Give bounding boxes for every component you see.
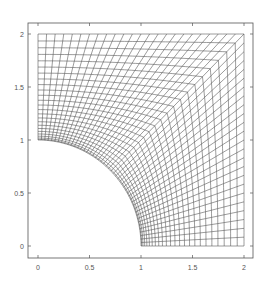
radial-mesh-line	[141, 237, 244, 242]
radial-mesh-line	[51, 34, 72, 141]
radial-mesh-line	[90, 34, 176, 154]
y-tick-label: 1	[20, 137, 24, 144]
radial-mesh-line	[74, 34, 132, 147]
x-tick-label: 0.5	[85, 264, 95, 271]
radial-mesh-line	[130, 122, 244, 199]
radial-mesh-line	[141, 220, 245, 236]
y-tick-label: 2	[20, 31, 24, 38]
x-tick-label: 2	[242, 264, 246, 271]
x-tick-label: 1.5	[188, 264, 198, 271]
mesh-lines	[38, 34, 244, 246]
y-tick-label: 0	[20, 243, 24, 250]
x-tick-label: 1	[139, 264, 143, 271]
mesh-plot: 00.511.52 00.511.52	[0, 0, 272, 291]
x-tick-label: 0	[36, 264, 40, 271]
radial-mesh-line	[134, 149, 244, 209]
radial-mesh-line	[95, 34, 192, 158]
radial-mesh-line	[140, 211, 244, 232]
radial-mesh-line	[127, 105, 244, 193]
radial-mesh-line	[45, 34, 55, 140]
y-tick-label: 1.5	[14, 84, 24, 91]
radial-mesh-line	[124, 87, 244, 187]
radial-mesh-line	[141, 228, 244, 239]
radial-mesh-line	[140, 202, 244, 229]
radial-mesh-line	[125, 96, 244, 190]
radial-mesh-line	[92, 34, 184, 156]
radial-mesh-line	[98, 34, 201, 160]
radial-mesh-line	[55, 34, 81, 141]
radial-mesh-line	[41, 34, 46, 140]
radial-mesh-line	[111, 34, 244, 171]
radial-mesh-line	[84, 34, 159, 151]
radial-mesh-line	[122, 78, 244, 184]
radial-mesh-line	[48, 34, 64, 141]
y-tick-label: 0.5	[14, 190, 24, 197]
